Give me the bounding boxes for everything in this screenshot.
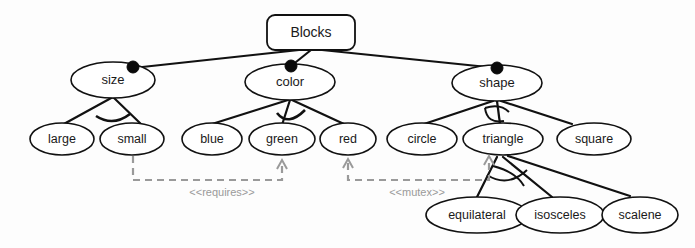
- constraint-mutex[interactable]: <<mutex>>: [343, 156, 494, 198]
- node-isosceles[interactable]: isosceles: [516, 197, 604, 233]
- group-arc-size-xor: [96, 114, 130, 121]
- mandatory-dot-size: [127, 61, 139, 73]
- node-color-label: color: [276, 74, 305, 89]
- node-blue-label: blue: [200, 132, 224, 146]
- constraint-requires[interactable]: <<requires>>: [133, 156, 287, 198]
- edge-shape-circle: [424, 101, 493, 124]
- node-large[interactable]: large: [30, 123, 94, 155]
- node-blocks[interactable]: Blocks: [267, 15, 355, 50]
- edge-shape-square: [501, 101, 572, 124]
- node-triangle[interactable]: triangle: [463, 123, 543, 155]
- edge-group-triangle: [477, 156, 630, 197]
- node-green[interactable]: green: [249, 123, 315, 155]
- edge-blocks-shape: [322, 50, 497, 68]
- node-small[interactable]: small: [100, 123, 164, 155]
- node-triangle-label: triangle: [483, 132, 524, 146]
- node-small-label: small: [117, 132, 146, 146]
- mandatory-dot-shape: [491, 62, 503, 74]
- mandatory-dot-color: [285, 60, 297, 72]
- group-arc-shape-or: [485, 108, 504, 121]
- node-blocks-label: Blocks: [290, 24, 331, 40]
- feature-model-diagram: Blocks size color shape large small: [0, 0, 695, 248]
- edge-color-red: [292, 100, 344, 124]
- node-color[interactable]: color: [245, 60, 335, 100]
- constraint-mutex-label: <<mutex>>: [389, 186, 445, 198]
- node-green-label: green: [266, 132, 298, 146]
- node-red[interactable]: red: [320, 123, 376, 155]
- node-size[interactable]: size: [71, 61, 155, 98]
- edge-group-color: [212, 100, 344, 125]
- node-red-label: red: [339, 132, 357, 146]
- edge-group-shape: [424, 101, 572, 124]
- diagram-canvas: Blocks size color shape large small: [0, 0, 695, 248]
- edge-group-root: [133, 50, 497, 68]
- node-circle-label: circle: [407, 132, 436, 146]
- node-large-label: large: [48, 132, 76, 146]
- group-arc-color-or: [277, 110, 305, 119]
- node-size-label: size: [101, 72, 124, 87]
- node-equilateral-label: equilateral: [448, 208, 506, 222]
- node-scalene[interactable]: scalene: [602, 197, 678, 233]
- node-isosceles-label: isosceles: [534, 208, 585, 222]
- constraint-requires-line: [133, 156, 282, 180]
- edge-group-size: [62, 97, 142, 125]
- node-blue[interactable]: blue: [182, 123, 242, 155]
- node-shape-label: shape: [479, 75, 514, 90]
- constraint-mutex-line: [348, 161, 489, 180]
- node-square[interactable]: square: [557, 123, 631, 155]
- constraint-requires-label: <<requires>>: [189, 186, 254, 198]
- node-shape[interactable]: shape: [452, 62, 542, 101]
- edge-color-blue: [212, 100, 288, 124]
- node-equilateral[interactable]: equilateral: [426, 197, 528, 233]
- node-circle[interactable]: circle: [387, 123, 457, 155]
- edge-color-green: [282, 100, 290, 125]
- node-scalene-label: scalene: [618, 208, 661, 222]
- node-square-label: square: [575, 132, 613, 146]
